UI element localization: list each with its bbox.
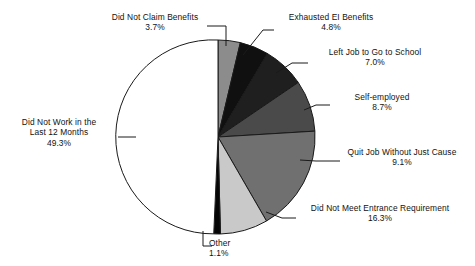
pie-label-other: Other 1.1% bbox=[209, 238, 265, 259]
pie-label-value: 16.3% bbox=[286, 213, 474, 223]
pie-label-name: Did Not Meet Entrance Requirement bbox=[286, 203, 474, 213]
pie-label-entrance-requirement: Did Not Meet Entrance Requirement 16.3% bbox=[286, 203, 474, 224]
pie-label-name: Other bbox=[209, 238, 265, 248]
pie-label-value: 8.7% bbox=[322, 102, 442, 112]
pie-label-exhausted-ei-benefits: Exhausted EI Benefits 4.8% bbox=[268, 12, 394, 33]
pie-label-name: Left Job to Go to School bbox=[300, 47, 450, 57]
pie-label-value: 7.0% bbox=[300, 57, 450, 67]
pie-label-value: 4.8% bbox=[268, 22, 394, 32]
pie-label-did-not-work: Did Not Work in the Last 12 Months 49.3% bbox=[4, 117, 114, 148]
pie-label-value: 49.3% bbox=[4, 138, 114, 148]
pie-label-value: 1.1% bbox=[209, 248, 265, 258]
pie-label-quit-job: Quit Job Without Just Cause 9.1% bbox=[330, 147, 474, 168]
pie-chart: Did Not Claim Benefits 3.7% Exhausted EI… bbox=[0, 0, 475, 266]
pie-label-self-employed: Self-employed 8.7% bbox=[322, 92, 442, 113]
pie-label-left-job-school: Left Job to Go to School 7.0% bbox=[300, 47, 450, 68]
pie-label-value: 9.1% bbox=[330, 157, 474, 167]
pie-label-name: Self-employed bbox=[322, 92, 442, 102]
pie-label-name: Quit Job Without Just Cause bbox=[330, 147, 474, 157]
pie-label-name: Did Not Claim Benefits bbox=[96, 12, 214, 22]
pie-label-did-not-claim-benefits: Did Not Claim Benefits 3.7% bbox=[96, 12, 214, 33]
pie-label-name-line1: Did Not Work in the bbox=[4, 117, 114, 127]
pie-label-value: 3.7% bbox=[96, 22, 214, 32]
pie-label-name-line2: Last 12 Months bbox=[4, 127, 114, 137]
pie-label-name: Exhausted EI Benefits bbox=[268, 12, 394, 22]
